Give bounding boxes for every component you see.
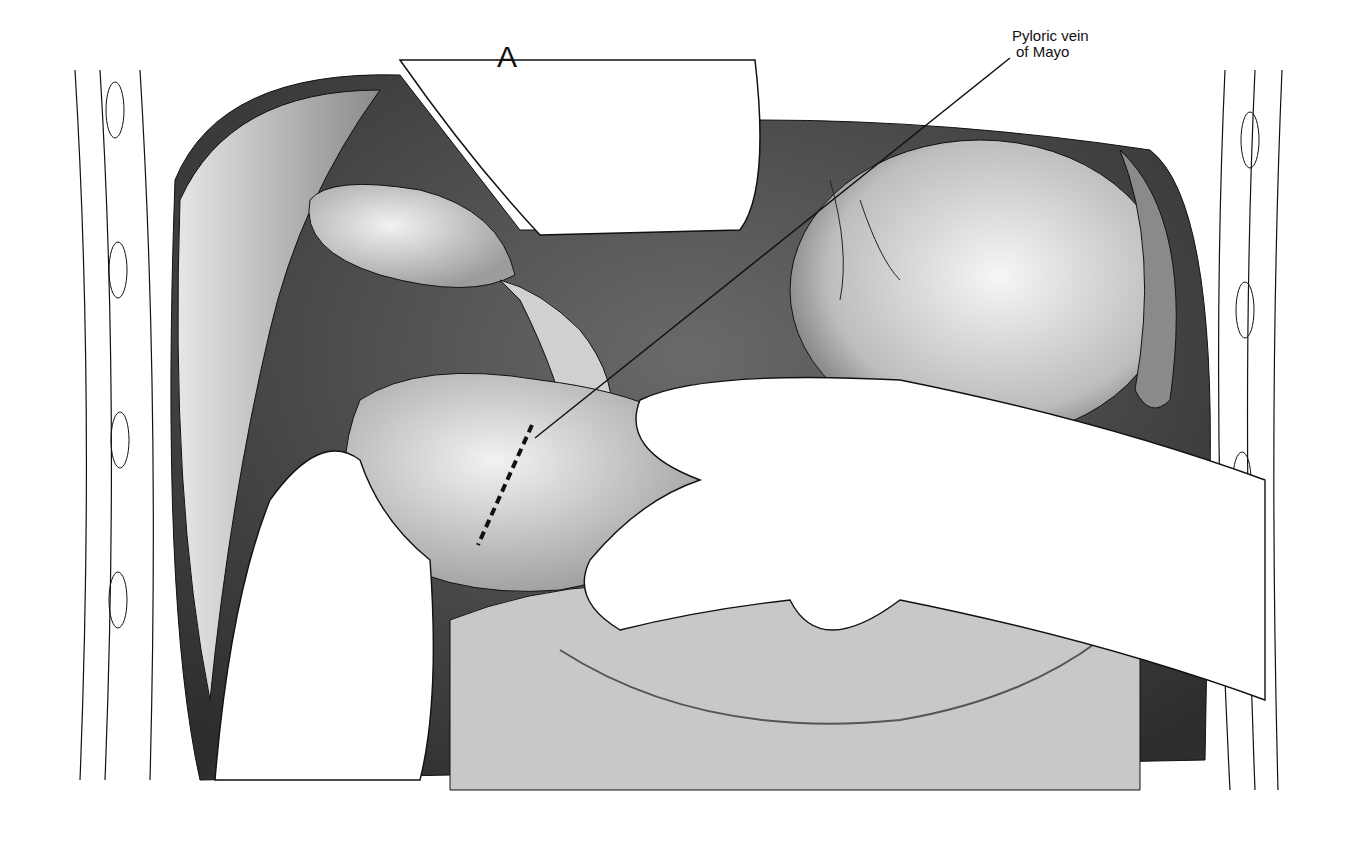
pyloric-vein-label-line2: of Mayo	[1012, 44, 1089, 60]
abdominal-wall-left	[75, 70, 153, 780]
panel-letter: A	[497, 40, 517, 74]
pyloric-vein-label: Pyloric vein of Mayo	[1012, 28, 1089, 60]
surgical-illustration	[0, 0, 1353, 841]
pyloric-vein-label-line1: Pyloric vein	[1012, 28, 1089, 44]
